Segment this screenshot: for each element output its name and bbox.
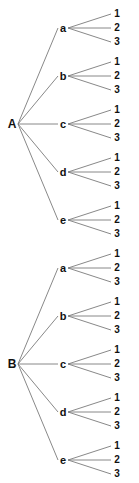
- leaf-node-3: 3: [114, 37, 120, 47]
- leaf-node-3: 3: [114, 325, 120, 335]
- leaf-node-1: 1: [114, 297, 120, 307]
- edge: [18, 268, 58, 364]
- edge: [68, 302, 111, 316]
- edge: [68, 398, 111, 412]
- leaf-node-3: 3: [114, 181, 120, 191]
- edge: [68, 206, 111, 220]
- leaf-node-2: 2: [114, 215, 120, 225]
- leaf-node-1: 1: [114, 153, 120, 163]
- edge: [18, 76, 58, 124]
- edge: [68, 460, 111, 474]
- edge: [68, 62, 111, 76]
- edge: [68, 28, 111, 42]
- child-node-a: a: [60, 263, 66, 274]
- root-node-b: B: [8, 358, 17, 370]
- leaf-node-1: 1: [114, 345, 120, 355]
- edge: [18, 364, 58, 412]
- leaf-node-1: 1: [114, 105, 120, 115]
- edge: [18, 124, 58, 172]
- edge: [68, 172, 111, 186]
- child-node-c: c: [60, 359, 66, 370]
- edge: [68, 14, 111, 28]
- edge: [18, 124, 58, 220]
- edge: [68, 446, 111, 460]
- edge: [18, 28, 58, 124]
- edge: [18, 316, 58, 364]
- edge: [68, 316, 111, 330]
- child-node-d: d: [60, 407, 67, 418]
- leaf-node-1: 1: [114, 393, 120, 403]
- leaf-node-2: 2: [114, 23, 120, 33]
- edge: [18, 364, 58, 460]
- child-node-e: e: [60, 215, 66, 226]
- edge: [68, 412, 111, 426]
- tree-diagram: Aa123b123c123d123e123Ba123b123c123d123e1…: [0, 0, 139, 483]
- edge: [68, 110, 111, 124]
- child-node-a: a: [60, 23, 66, 34]
- leaf-node-2: 2: [114, 71, 120, 81]
- edge: [68, 220, 111, 234]
- leaf-node-1: 1: [114, 201, 120, 211]
- leaf-node-1: 1: [114, 57, 120, 67]
- edge: [68, 254, 111, 268]
- leaf-node-2: 2: [114, 311, 120, 321]
- edge: [68, 158, 111, 172]
- leaf-node-3: 3: [114, 133, 120, 143]
- child-node-b: b: [60, 71, 67, 82]
- root-node-a: A: [8, 118, 17, 130]
- child-node-b: b: [60, 311, 67, 322]
- leaf-node-3: 3: [114, 85, 120, 95]
- leaf-node-1: 1: [114, 249, 120, 259]
- leaf-node-2: 2: [114, 407, 120, 417]
- leaf-node-3: 3: [114, 373, 120, 383]
- child-node-e: e: [60, 455, 66, 466]
- edge: [68, 268, 111, 282]
- edge: [68, 350, 111, 364]
- leaf-node-2: 2: [114, 167, 120, 177]
- leaf-node-1: 1: [114, 441, 120, 451]
- leaf-node-3: 3: [114, 469, 120, 479]
- edge: [68, 76, 111, 90]
- edge: [68, 364, 111, 378]
- leaf-node-2: 2: [114, 359, 120, 369]
- leaf-node-2: 2: [114, 263, 120, 273]
- child-node-d: d: [60, 167, 67, 178]
- leaf-node-3: 3: [114, 229, 120, 239]
- leaf-node-2: 2: [114, 455, 120, 465]
- edge: [68, 124, 111, 138]
- leaf-node-3: 3: [114, 277, 120, 287]
- leaf-node-1: 1: [114, 9, 120, 19]
- leaf-node-3: 3: [114, 421, 120, 431]
- child-node-c: c: [60, 119, 66, 130]
- leaf-node-2: 2: [114, 119, 120, 129]
